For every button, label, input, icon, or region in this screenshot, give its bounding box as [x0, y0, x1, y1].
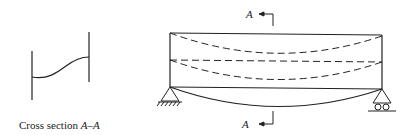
deflected-shape-curve	[170, 87, 382, 107]
beam-top-line	[170, 33, 382, 35]
top-flange-deflected-dashed	[170, 33, 382, 53]
diagram-canvas: Cross section A–A A A	[0, 0, 413, 135]
cross-section-figure	[32, 32, 89, 100]
beam	[170, 33, 382, 107]
section-marker-bottom	[259, 111, 273, 126]
section-label-bottom: A	[241, 118, 249, 130]
cross-section-caption: Cross section A–A	[19, 119, 100, 131]
neutral-axis-dashed	[170, 60, 382, 62]
bottom-flange-deflected-dashed	[170, 60, 382, 80]
beam-bottom-line	[170, 87, 382, 89]
section-marker-top	[259, 12, 273, 26]
section-label-top: A	[245, 8, 253, 20]
cross-section-curve	[32, 57, 89, 78]
